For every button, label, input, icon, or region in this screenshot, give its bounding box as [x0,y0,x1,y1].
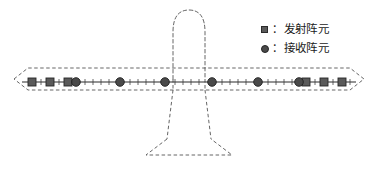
legend-separator-transmit: ： [271,24,284,35]
receive-element [161,78,170,87]
legend-label-receive: 接收阵元 [284,43,329,55]
rear-fuselage-outline [167,90,211,139]
transmit-element [28,78,36,86]
transmit-element [320,78,328,86]
receive-element [295,78,304,87]
transmit-element [64,78,72,86]
receive-element [72,78,81,87]
legend: ： 发射阵元 ： 接收阵元 [258,22,374,56]
horizontal-stabilizer-outline [146,139,232,155]
fuselage-outline [173,79,205,90]
legend-item-receive: ： 接收阵元 [258,41,374,56]
transmit-element [46,78,54,86]
transmit-element-marker-icon [258,26,271,33]
receive-element-marker-icon [258,45,271,53]
legend-separator-receive: ： [271,43,284,54]
receive-element [116,78,125,87]
aircraft-array-diagram: ： 发射阵元 ： 接收阵元 [0,0,378,169]
nose-dome-outline [173,10,205,79]
legend-label-transmit: 发射阵元 [284,24,329,36]
receive-element [254,78,263,87]
receive-element [208,78,217,87]
transmit-element [338,78,346,86]
legend-item-transmit: ： 发射阵元 [258,22,374,37]
